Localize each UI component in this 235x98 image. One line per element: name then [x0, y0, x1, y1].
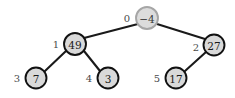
tree-node-5[interactable]: 17 [166, 68, 187, 89]
node-value-5: 17 [169, 73, 182, 85]
tree-edge-2-5 [185, 52, 206, 71]
tree-edge-1-4 [84, 51, 100, 71]
tree-canvas: −449277317 012345 [0, 0, 235, 98]
node-index-label-5: 5 [154, 73, 160, 84]
node-index-label-2: 2 [193, 42, 199, 53]
tree-edge-1-3 [45, 51, 66, 71]
node-index-label-4: 4 [86, 73, 92, 84]
tree-node-2[interactable]: 27 [204, 35, 225, 56]
tree-node-4[interactable]: 3 [98, 68, 119, 89]
node-index-label-1: 1 [53, 39, 59, 50]
node-value-3: 7 [33, 73, 40, 85]
tree-node-3[interactable]: 7 [26, 68, 47, 89]
binary-tree-figure: −449277317 012345 [0, 0, 235, 98]
tree-edge-0-1 [84, 24, 138, 38]
node-value-1: 49 [68, 39, 81, 51]
node-value-2: 27 [207, 40, 220, 52]
node-index-label-3: 3 [14, 73, 20, 84]
node-value-4: 3 [105, 73, 112, 85]
tree-node-0[interactable]: −4 [136, 7, 158, 29]
node-index-label-0: 0 [124, 13, 130, 24]
tree-edge-0-2 [157, 24, 205, 39]
node-value-0: −4 [139, 13, 155, 25]
tree-node-1[interactable]: 49 [64, 33, 86, 55]
